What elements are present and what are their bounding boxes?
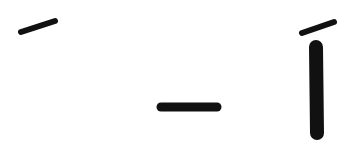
i-stem-stroke [316,47,317,133]
handwriting-canvas [0,0,355,166]
acute-accent-stroke [21,21,55,32]
i-acute-accent-stroke [302,22,334,33]
stroke-layer [0,0,355,166]
acute-accent-glyph [21,21,55,32]
i-acute-glyph [302,22,334,133]
